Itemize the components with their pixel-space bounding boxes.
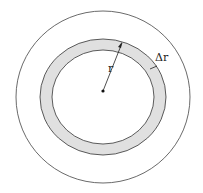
- thickness-label: Δr: [155, 51, 169, 64]
- radius-label: r: [108, 62, 114, 75]
- annulus-inner-edge: [52, 50, 154, 144]
- annulus-diagram: r Δr: [0, 0, 203, 193]
- center-point: [101, 89, 104, 92]
